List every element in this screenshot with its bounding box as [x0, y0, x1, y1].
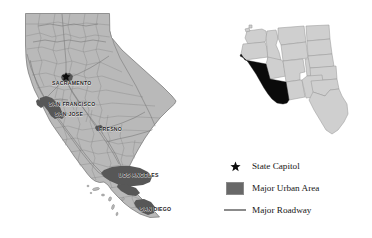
map-figure: SACRAMENTO SAN FRANCISCO SAN JOSE FRESNO… [0, 0, 372, 238]
legend-item-major-urban-area: Major Urban Area [222, 177, 368, 199]
legend-item-state-capitol: State Capitol [222, 155, 368, 177]
western-us-states [241, 25, 348, 134]
legend-item-major-roadway: Major Roadway [222, 199, 368, 221]
legend-label-major-roadway: Major Roadway [252, 205, 311, 215]
urban-area-swatch [222, 182, 248, 195]
map-legend: State Capitol Major Urban Area Major Roa… [222, 155, 368, 221]
star-icon [222, 161, 248, 172]
legend-label-major-urban-area: Major Urban Area [252, 183, 319, 193]
roadway-line-icon [222, 209, 248, 211]
legend-label-state-capitol: State Capitol [252, 161, 300, 171]
